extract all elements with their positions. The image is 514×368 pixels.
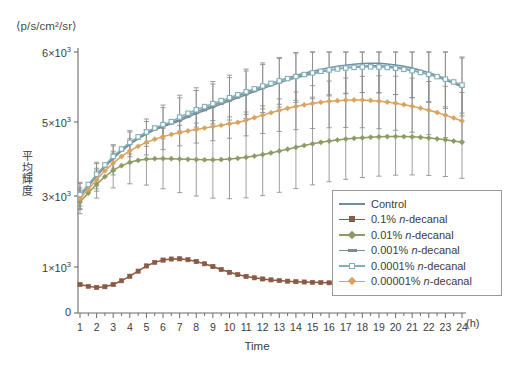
- legend-label: 0.00001% n-decanal: [371, 275, 472, 287]
- data-point: [119, 279, 123, 283]
- data-point: [376, 134, 381, 139]
- data-point: [128, 274, 132, 278]
- data-point: [426, 108, 431, 113]
- data-point: [343, 136, 348, 141]
- plot-area: [0, 0, 514, 368]
- data-point: [127, 160, 132, 165]
- data-point: [269, 278, 273, 282]
- data-point: [327, 99, 332, 104]
- data-point: [460, 83, 464, 87]
- data-point: [227, 156, 232, 161]
- data-point: [418, 106, 423, 111]
- data-point: [211, 101, 215, 105]
- legend-marker-line-icon: [339, 198, 365, 210]
- data-point: [351, 97, 356, 102]
- data-point: [352, 65, 356, 69]
- data-point: [294, 74, 298, 78]
- data-point: [86, 284, 90, 288]
- data-point: [319, 280, 323, 284]
- data-point: [235, 156, 240, 161]
- data-point: [443, 77, 447, 81]
- data-point: [451, 115, 456, 120]
- data-point: [459, 140, 464, 145]
- data-point: [385, 134, 390, 139]
- data-point: [269, 81, 273, 85]
- data-point: [368, 135, 373, 140]
- data-point: [319, 69, 323, 73]
- data-point: [260, 113, 265, 118]
- data-point: [418, 135, 423, 140]
- legend: Control0.1% n-decanal0.01% n-decanal0.00…: [332, 190, 502, 296]
- data-point: [252, 153, 257, 158]
- data-point: [94, 172, 98, 176]
- y-tick-label: 0: [1, 306, 71, 318]
- legend-label: 0.001% n-decanal: [371, 244, 460, 256]
- data-point: [443, 113, 448, 118]
- data-point: [227, 270, 231, 274]
- data-point: [401, 102, 406, 107]
- legend-item[interactable]: 0.01% n-decanal: [339, 227, 494, 243]
- series-0-00001-n-decanal: [77, 97, 464, 201]
- data-point: [310, 101, 315, 106]
- data-point: [302, 143, 307, 148]
- data-point: [244, 90, 248, 94]
- data-point: [153, 260, 157, 264]
- legend-item[interactable]: Control: [339, 196, 494, 212]
- data-point: [236, 272, 240, 276]
- y-tick-label: 5×103: [1, 115, 71, 129]
- data-point: [385, 99, 390, 104]
- data-point: [169, 132, 174, 137]
- data-point: [434, 110, 439, 115]
- data-point: [210, 157, 215, 162]
- data-point: [252, 115, 257, 120]
- data-point: [152, 156, 157, 161]
- data-point: [136, 269, 140, 273]
- data-point: [202, 157, 207, 162]
- data-point: [144, 157, 149, 162]
- data-point: [227, 121, 232, 126]
- data-point: [136, 135, 140, 139]
- data-point: [186, 111, 190, 115]
- data-point: [285, 106, 290, 111]
- data-point: [310, 280, 314, 284]
- data-point: [344, 66, 348, 70]
- data-point: [260, 152, 265, 157]
- legend-marker-diamond-icon: [339, 229, 365, 241]
- data-point: [377, 65, 381, 69]
- data-point: [144, 130, 148, 134]
- data-point: [128, 140, 132, 144]
- data-point: [236, 93, 240, 97]
- x-axis-unit: (h): [466, 317, 479, 329]
- y-tick-label: 6×103: [1, 45, 71, 59]
- legend-item[interactable]: 0.1% n-decanal: [339, 212, 494, 228]
- data-point: [144, 140, 149, 145]
- data-point: [435, 74, 439, 78]
- data-point: [418, 70, 422, 74]
- data-point: [252, 276, 256, 280]
- data-point: [434, 136, 439, 141]
- data-point: [260, 84, 264, 88]
- data-point: [177, 156, 182, 161]
- data-point: [277, 148, 282, 153]
- data-point: [410, 134, 415, 139]
- data-point: [310, 71, 314, 75]
- legend-marker-diamond-icon: [339, 275, 365, 287]
- data-point: [194, 108, 198, 112]
- data-point: [335, 98, 340, 103]
- legend-item[interactable]: 0.00001% n-decanal: [339, 274, 494, 290]
- legend-label: Control: [371, 198, 406, 210]
- data-point: [152, 137, 157, 142]
- data-point: [95, 285, 99, 289]
- data-point: [235, 120, 240, 125]
- data-point: [285, 76, 289, 80]
- data-point: [286, 279, 290, 283]
- data-point: [277, 108, 282, 113]
- data-point: [202, 104, 206, 108]
- data-point: [244, 274, 248, 278]
- legend-item[interactable]: 0.001% n-decanal: [339, 243, 494, 259]
- data-point: [111, 282, 115, 286]
- data-point: [294, 280, 298, 284]
- data-point: [178, 257, 182, 261]
- data-point: [327, 68, 331, 72]
- legend-item[interactable]: 0.0001% n-decanal: [339, 258, 494, 274]
